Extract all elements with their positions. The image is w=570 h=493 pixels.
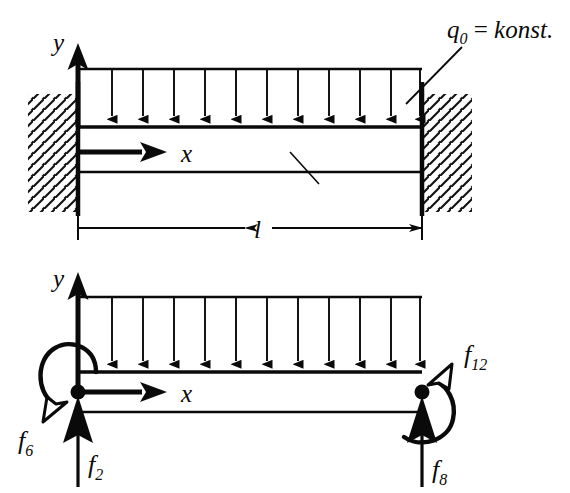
f8-subscript: 8 — [439, 471, 447, 488]
force-f2-label: f2 — [88, 450, 103, 483]
svg-text:q0 = konst.: q0 = konst. — [447, 16, 553, 47]
load-subscript: 0 — [460, 30, 468, 47]
engineering-beam-diagram: y x q0 = konst. — [0, 0, 570, 493]
x-axis-arrow-bottom — [78, 382, 167, 402]
svg-text:f8: f8 — [432, 455, 447, 488]
distributed-load-arrows-bottom — [112, 298, 420, 361]
force-f6-label: f6 — [18, 426, 33, 459]
length-label: l — [254, 216, 261, 243]
right-wall-support-top — [424, 94, 472, 212]
y-axis-label-bottom: y — [50, 265, 65, 292]
distributed-load-arrows-top — [112, 70, 420, 116]
left-wall-support-top — [28, 94, 76, 212]
x-axis-label-bottom: x — [180, 380, 192, 407]
x-axis-label-top: x — [180, 140, 192, 167]
force-f12-label: f12 — [464, 340, 487, 373]
force-f8-label: f8 — [432, 455, 447, 488]
f12-subscript: 12 — [471, 356, 487, 373]
f6-subscript: 6 — [25, 442, 33, 459]
diagram-canvas: y x q0 = konst. — [0, 0, 570, 493]
distributed-load-label: q0 = konst. — [447, 16, 553, 47]
svg-text:f12: f12 — [464, 340, 487, 373]
svg-text:f6: f6 — [18, 426, 33, 459]
load-symbol: q — [447, 16, 460, 43]
x-axis-arrow-top — [78, 142, 167, 162]
y-axis-arrow-bottom — [68, 272, 89, 392]
y-axis-label-top: y — [50, 29, 65, 56]
bottom-panel: y x f2 — [18, 265, 487, 488]
svg-text:f2: f2 — [88, 450, 103, 483]
f2-subscript: 2 — [95, 466, 103, 483]
force-f6-moment — [40, 344, 96, 422]
load-equals: = — [468, 16, 495, 43]
beam-leader-tick — [290, 152, 319, 184]
top-panel: y x q0 = konst. — [28, 16, 553, 243]
load-value: konst. — [494, 16, 553, 43]
